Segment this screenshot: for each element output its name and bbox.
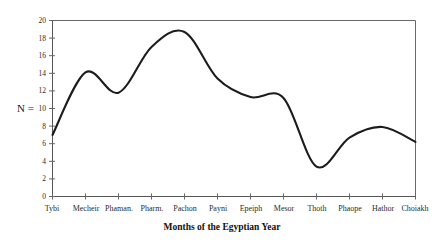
y-tick-label: 14 bbox=[39, 69, 47, 78]
x-tick-label-phaope: Phaope bbox=[338, 204, 362, 213]
y-tick-label: 8 bbox=[42, 122, 46, 131]
y-tick-label: 6 bbox=[42, 139, 46, 148]
x-tick-label-hathor: Hathor bbox=[372, 204, 395, 213]
data-series-line bbox=[53, 30, 416, 167]
y-tick-label: 0 bbox=[42, 192, 46, 201]
x-tick-label-pharm: Pharm. bbox=[141, 204, 164, 213]
x-tick-labels: Tybi Mecheir Phaman. Pharm. Pachon Payni… bbox=[45, 204, 429, 213]
y-tick-label: 16 bbox=[39, 51, 47, 60]
chart-container: 20 18 16 14 12 10 8 6 4 2 0 N = bbox=[0, 0, 444, 244]
y-tick-label: 10 bbox=[39, 104, 47, 113]
plot-frame bbox=[53, 21, 416, 197]
y-tick-label: 4 bbox=[42, 157, 46, 166]
x-tick-label-epeiph: Epeiph bbox=[240, 204, 263, 213]
x-tick-label-thoth: Thoth bbox=[307, 204, 326, 213]
line-chart: 20 18 16 14 12 10 8 6 4 2 0 N = bbox=[0, 0, 444, 244]
x-tick-label-mesor: Mesor bbox=[274, 204, 295, 213]
y-tick-label: 2 bbox=[42, 174, 46, 183]
y-axis-label: N = bbox=[17, 102, 34, 114]
y-tick-labels: 20 18 16 14 12 10 8 6 4 2 0 bbox=[39, 16, 47, 201]
y-tick-label: 18 bbox=[39, 34, 47, 43]
x-tick-label-choiakh: Choiakh bbox=[401, 204, 428, 213]
x-tick-label-tybi: Tybi bbox=[45, 204, 60, 213]
y-tick-label: 12 bbox=[39, 86, 47, 95]
x-tick-label-payni: Payni bbox=[209, 204, 228, 213]
x-tick-label-phaman: Phaman. bbox=[105, 204, 133, 213]
x-axis-title: Months of the Egyptian Year bbox=[164, 222, 282, 232]
x-tick-label-mecheir: Mecheir bbox=[73, 204, 100, 213]
y-tick-label: 20 bbox=[39, 16, 47, 25]
x-tick-label-pachon: Pachon bbox=[173, 204, 197, 213]
